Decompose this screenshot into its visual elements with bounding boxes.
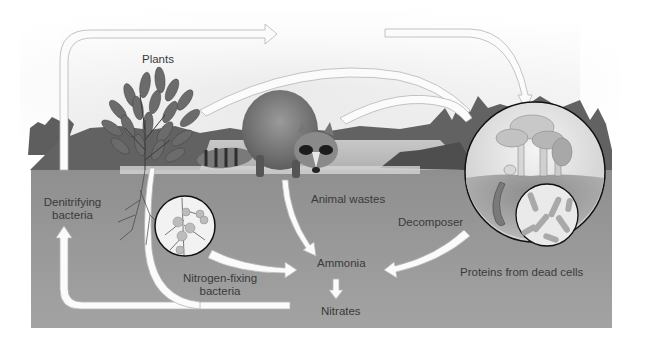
label-proteins-from-dead-cells: Proteins from dead cells [460, 266, 583, 279]
diagram-artwork [0, 0, 650, 351]
label-denitrifying-line1: Denitrifying [40, 196, 105, 209]
label-denitrifying-line2: bacteria [40, 209, 105, 222]
label-animal-wastes: Animal wastes [311, 193, 385, 206]
label-ammonia: Ammonia [317, 257, 366, 270]
bacteria-inset [516, 184, 578, 246]
nitrogen-cycle-diagram: Plants Denitrifying bacteria Animal wast… [0, 0, 650, 351]
label-denitrifying-bacteria: Denitrifying bacteria [40, 196, 105, 222]
label-nitrates: Nitrates [321, 305, 361, 318]
root-nodule-inset [155, 196, 215, 256]
label-plants: Plants [142, 53, 174, 66]
label-decomposer: Decomposer [398, 216, 463, 229]
label-nitrogen-fixing-bacteria: Nitrogen-fixing bacteria [180, 272, 260, 298]
label-nitrogen-fixing-line1: Nitrogen-fixing [180, 272, 260, 285]
label-nitrogen-fixing-line2: bacteria [180, 285, 260, 298]
